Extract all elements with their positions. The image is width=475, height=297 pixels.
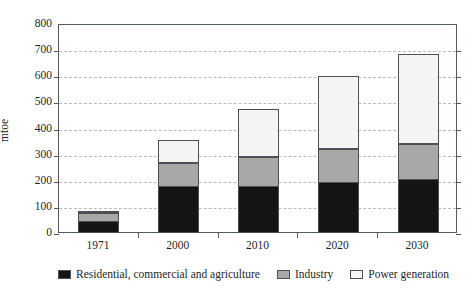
gridline [59, 77, 456, 78]
legend-item-label: Residential, commercial and agriculture [76, 268, 260, 280]
plot-area [58, 24, 457, 233]
legend-swatch-icon [277, 270, 290, 279]
stacked-bar-chart-figure: mtoe 0100200300400500600700800 197120002… [0, 0, 475, 297]
y-tick-mark-right [456, 130, 461, 131]
y-tick-label: 800 [8, 18, 52, 30]
y-tick-mark-right [456, 182, 461, 183]
y-tick-label: 600 [8, 70, 52, 82]
y-tick-mark [54, 208, 59, 209]
y-tick-mark-right [456, 156, 461, 157]
bar-group[interactable] [318, 76, 359, 232]
bar-segment[interactable] [398, 144, 439, 181]
legend-item[interactable]: Power generation [350, 268, 449, 280]
legend-swatch-icon [58, 270, 71, 279]
legend-item-label: Industry [295, 268, 333, 280]
y-tick-mark [54, 103, 59, 104]
chart-legend: Residential, commercial and agricultureI… [58, 264, 463, 284]
legend-swatch-icon [350, 270, 363, 279]
bar-segment[interactable] [158, 140, 199, 164]
bar-segment[interactable] [158, 163, 199, 187]
y-tick-label: 400 [8, 123, 52, 135]
gridline [59, 51, 456, 52]
y-axis: mtoe 0100200300400500600700800 [0, 24, 52, 233]
y-tick-label: 700 [8, 44, 52, 56]
y-tick-mark [54, 77, 59, 78]
x-tick-label: 2030 [406, 238, 429, 252]
y-tick-mark-right [456, 77, 461, 78]
x-tick-label: 2010 [246, 238, 269, 252]
y-tick-label: 500 [8, 96, 52, 108]
y-tick-label: 100 [8, 201, 52, 213]
bar-group[interactable] [398, 54, 439, 232]
bar-segment[interactable] [318, 149, 359, 183]
x-tick-label: 2020 [326, 238, 349, 252]
bar-segment[interactable] [238, 186, 279, 233]
bar-group[interactable] [78, 211, 119, 233]
y-tick-label: 0 [8, 227, 52, 239]
legend-item[interactable]: Residential, commercial and agriculture [58, 268, 260, 280]
bar-group[interactable] [158, 140, 199, 232]
bar-group[interactable] [238, 109, 279, 232]
y-tick-mark-right [456, 103, 461, 104]
bar-segment[interactable] [318, 182, 359, 233]
bar-segment[interactable] [238, 157, 279, 187]
bar-segment[interactable] [158, 186, 199, 233]
gridline [59, 103, 456, 104]
y-tick-mark-right [456, 51, 461, 52]
y-tick-label: 200 [8, 175, 52, 187]
bar-segment[interactable] [78, 221, 119, 233]
bar-segment[interactable] [238, 109, 279, 157]
x-tick-label: 2000 [166, 238, 189, 252]
y-tick-mark [54, 182, 59, 183]
x-tick-label: 1971 [86, 238, 109, 252]
y-tick-label: 300 [8, 149, 52, 161]
plot-inner [59, 25, 456, 232]
y-tick-mark [54, 51, 59, 52]
y-tick-mark [54, 130, 59, 131]
bar-segment[interactable] [398, 54, 439, 144]
bar-segment[interactable] [398, 179, 439, 233]
legend-item[interactable]: Industry [277, 268, 333, 280]
legend-item-label: Power generation [368, 268, 449, 280]
y-tick-mark [54, 156, 59, 157]
y-tick-mark-right [456, 208, 461, 209]
bar-segment[interactable] [318, 76, 359, 149]
x-axis-labels: 19712000201020202030 [58, 238, 457, 254]
